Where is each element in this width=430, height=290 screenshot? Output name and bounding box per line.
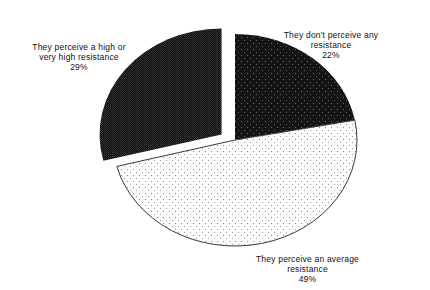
slice-label-line: They perceive a high or <box>24 42 134 52</box>
slice-label-line: resistance <box>276 40 386 50</box>
slice-label-line: very high resistance <box>24 52 134 62</box>
slice-label-average-resistance: They perceive an average resistance 49% <box>250 254 365 284</box>
slice-label-line: They don't perceive any <box>276 30 386 40</box>
slice-label-high-resistance: They perceive a high or very high resist… <box>24 42 134 72</box>
slice-value: 22% <box>276 50 386 60</box>
pie-chart: They don't perceive any resistance 22% T… <box>0 0 430 290</box>
slice-label-line: resistance <box>250 264 365 274</box>
slice-value: 49% <box>250 274 365 284</box>
slice-label-no-resistance: They don't perceive any resistance 22% <box>276 30 386 60</box>
slice-value: 29% <box>24 62 134 72</box>
slice-label-line: They perceive an average <box>250 254 365 264</box>
